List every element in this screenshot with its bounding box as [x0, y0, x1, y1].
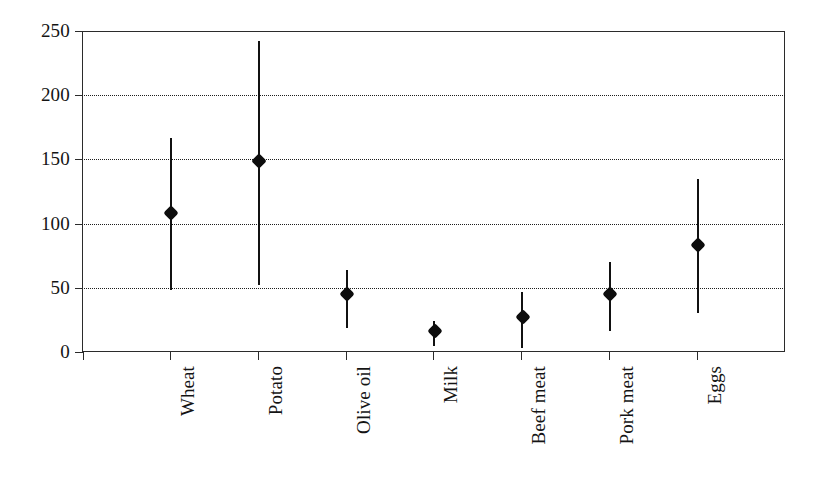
x-tick-mark-wheat: [170, 352, 171, 360]
x-label-pork-meat: Pork meat: [617, 366, 636, 444]
x-tick-mark-milk: [433, 352, 434, 360]
y-tick-label-150: 150: [8, 149, 70, 168]
gridline-200: [82, 95, 785, 96]
gridline-50: [82, 288, 785, 289]
y-tick-label-200: 200: [8, 85, 70, 104]
x-tick-mark-pork-meat: [609, 352, 610, 360]
y-tick-mark-150: [75, 159, 83, 160]
x-tick-mark-origin: [83, 352, 84, 360]
x-label-wheat: Wheat: [178, 366, 197, 416]
x-tick-mark-eggs: [697, 352, 698, 360]
chart-container: 050100150200250 WheatPotatoOlive oilMilk…: [0, 0, 818, 485]
y-tick-label-50: 50: [8, 278, 70, 297]
x-tick-mark-potato: [258, 352, 259, 360]
y-tick-mark-250: [75, 31, 83, 32]
y-tick-mark-200: [75, 95, 83, 96]
x-label-olive-oil: Olive oil: [354, 366, 373, 434]
x-tick-mark-beef-meat: [521, 352, 522, 360]
x-label-potato: Potato: [266, 366, 285, 415]
plot-area: [82, 31, 785, 352]
x-label-milk: Milk: [441, 366, 460, 403]
x-tick-mark-olive-oil: [346, 352, 347, 360]
x-label-eggs: Eggs: [705, 366, 724, 404]
gridline-150: [82, 159, 785, 160]
y-tick-mark-50: [75, 288, 83, 289]
gridline-100: [82, 224, 785, 225]
y-tick-label-100: 100: [8, 214, 70, 233]
y-tick-label-0: 0: [8, 342, 70, 361]
y-tick-mark-100: [75, 224, 83, 225]
x-label-beef-meat: Beef meat: [529, 366, 548, 444]
y-tick-label-250: 250: [8, 21, 70, 40]
